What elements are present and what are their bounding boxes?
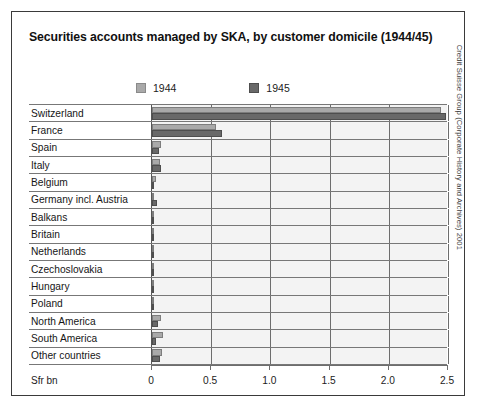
bar-1945 [152, 234, 154, 240]
axis-tick-label: 2.5 [440, 375, 454, 386]
bar-1945 [152, 338, 156, 344]
axis-line [151, 365, 447, 366]
bar-1945 [152, 217, 154, 223]
bar-group [152, 174, 447, 190]
row-plot-area [151, 122, 447, 138]
row-plot-area [151, 244, 447, 260]
category-label: Hungary [29, 278, 151, 294]
bar-1945 [152, 252, 154, 258]
category-label: Netherlands [29, 244, 151, 260]
bar-group [152, 105, 447, 121]
category-label: Switzerland [29, 105, 151, 121]
bar-group [152, 244, 447, 260]
credit-container: Credit Suisse Group (Corporate History a… [449, 130, 461, 370]
chart-row: France [29, 122, 447, 139]
row-plot-area [151, 261, 447, 277]
chart-row: South America [29, 330, 447, 347]
row-plot-area [151, 209, 447, 225]
category-label: Britain [29, 226, 151, 242]
page-title: Securities accounts managed by SKA, by c… [29, 30, 432, 44]
row-plot-area [151, 140, 447, 156]
legend-label-1944: 1944 [153, 82, 176, 94]
category-label: Germany incl. Austria [29, 192, 151, 208]
chart-row: Italy [29, 157, 447, 174]
bar-1945 [152, 148, 159, 154]
bar-group [152, 140, 447, 156]
chart-plot-area: SwitzerlandFranceSpainItalyBelgiumGerman… [29, 104, 447, 365]
row-plot-area [151, 348, 447, 364]
row-plot-area [151, 192, 447, 208]
row-plot-area [151, 278, 447, 294]
chart-figure: Securities accounts managed by SKA, by c… [11, 11, 465, 396]
chart-x-axis: Sfr bn 00.51.01.52.02.5 [29, 365, 447, 395]
bar-group [152, 261, 447, 277]
bar-group [152, 348, 447, 364]
axis-tick [210, 365, 211, 370]
chart-row: Other countries [29, 348, 447, 365]
bar-group [152, 313, 447, 329]
category-label: Spain [29, 140, 151, 156]
legend-item-1944: 1944 [136, 82, 176, 94]
credit-text: Credit Suisse Group (Corporate History a… [455, 45, 464, 250]
bar-1945 [152, 286, 154, 292]
legend-swatch-1944 [136, 83, 146, 93]
chart-row: Germany incl. Austria [29, 192, 447, 209]
chart-row: Hungary [29, 278, 447, 295]
row-plot-area [151, 174, 447, 190]
axis-tick [269, 365, 270, 370]
legend-swatch-1945 [249, 83, 259, 93]
chart-row: Czechoslovakia [29, 261, 447, 278]
bar-1945 [152, 304, 154, 310]
row-plot-area [151, 330, 447, 346]
row-plot-area [151, 105, 447, 121]
row-plot-area [151, 313, 447, 329]
bar-group [152, 157, 447, 173]
bar-1945 [152, 269, 154, 275]
bar-1945 [152, 113, 446, 119]
category-label: France [29, 122, 151, 138]
chart-row: Netherlands [29, 244, 447, 261]
category-label: Poland [29, 296, 151, 312]
axis-tick [447, 365, 448, 370]
bar-1945 [152, 130, 222, 136]
bar-1945 [152, 321, 158, 327]
axis-tick [388, 365, 389, 370]
row-plot-area [151, 296, 447, 312]
chart-row: Balkans [29, 209, 447, 226]
bar-group [152, 330, 447, 346]
legend-item-1945: 1945 [249, 82, 289, 94]
axis-tick [151, 365, 152, 370]
bar-1945 [152, 200, 157, 206]
bar-group [152, 226, 447, 242]
chart-legend: 1944 1945 [136, 82, 363, 94]
category-label: Czechoslovakia [29, 261, 151, 277]
chart-row: Poland [29, 296, 447, 313]
bar-group [152, 296, 447, 312]
axis-tick-label: 1.0 [262, 375, 276, 386]
gridline [448, 105, 449, 121]
chart-row: Spain [29, 140, 447, 157]
bar-1945 [152, 182, 154, 188]
axis-tick-label: 2.0 [381, 375, 395, 386]
row-plot-area [151, 157, 447, 173]
bar-group [152, 192, 447, 208]
bar-1945 [152, 165, 161, 171]
axis-unit-label: Sfr bn [31, 375, 58, 386]
axis-tick-label: 0.5 [203, 375, 217, 386]
category-label: Balkans [29, 209, 151, 225]
axis-tick-label: 1.5 [322, 375, 336, 386]
bar-group [152, 209, 447, 225]
axis-tick-label: 0 [148, 375, 154, 386]
axis-tick [329, 365, 330, 370]
chart-rows: SwitzerlandFranceSpainItalyBelgiumGerman… [29, 104, 447, 365]
category-label: Italy [29, 157, 151, 173]
category-label: North America [29, 313, 151, 329]
bar-1945 [152, 356, 160, 362]
category-label: South America [29, 330, 151, 346]
row-plot-area [151, 226, 447, 242]
chart-row: Britain [29, 226, 447, 243]
chart-row: Switzerland [29, 104, 447, 122]
bar-group [152, 278, 447, 294]
category-label: Other countries [29, 348, 151, 364]
category-label: Belgium [29, 174, 151, 190]
